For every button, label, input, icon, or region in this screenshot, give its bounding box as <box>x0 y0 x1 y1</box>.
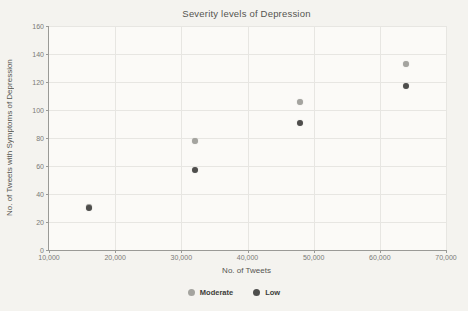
y-tick-mark <box>46 138 49 139</box>
y-tick-label: 20 <box>36 219 44 226</box>
x-tick-label: 60,000 <box>369 254 390 261</box>
x-tick-mark <box>248 250 249 253</box>
y-gridline <box>49 194 446 195</box>
y-gridline <box>49 54 446 55</box>
data-point-low <box>86 205 92 211</box>
legend-swatch-moderate <box>188 289 195 296</box>
y-tick-label: 40 <box>36 191 44 198</box>
legend-swatch-low <box>253 289 260 296</box>
y-gridline <box>49 166 446 167</box>
x-tick-label: 40,000 <box>237 254 258 261</box>
y-tick-label: 60 <box>36 163 44 170</box>
x-tick-mark <box>115 250 116 253</box>
y-tick-label: 80 <box>36 135 44 142</box>
data-point-low <box>403 83 409 89</box>
legend-item-moderate: Moderate <box>188 288 233 297</box>
x-tick-label: 30,000 <box>171 254 192 261</box>
y-tick-mark <box>46 166 49 167</box>
data-point-moderate <box>403 61 409 67</box>
y-tick-mark <box>46 26 49 27</box>
x-tick-label: 20,000 <box>104 254 125 261</box>
x-tick-label: 50,000 <box>303 254 324 261</box>
y-tick-mark <box>46 82 49 83</box>
y-gridline <box>49 138 446 139</box>
data-point-low <box>297 120 303 126</box>
y-axis-label: No. of Tweets with Symptoms of Depressio… <box>2 26 16 250</box>
x-tick-label: 10,000 <box>38 254 59 261</box>
y-gridline <box>49 82 446 83</box>
y-gridline <box>49 222 446 223</box>
y-tick-mark <box>46 222 49 223</box>
x-tick-mark <box>49 250 50 253</box>
y-gridline <box>49 110 446 111</box>
legend-label-low: Low <box>265 288 280 297</box>
plot-area: 10,00020,00030,00040,00050,00060,00070,0… <box>48 26 446 251</box>
y-tick-label: 140 <box>32 51 44 58</box>
data-point-moderate <box>192 138 198 144</box>
x-tick-mark <box>380 250 381 253</box>
x-tick-mark <box>314 250 315 253</box>
y-tick-mark <box>46 110 49 111</box>
chart-title: Severity levels of Depression <box>48 8 445 19</box>
data-point-low <box>192 167 198 173</box>
legend-label-moderate: Moderate <box>200 288 233 297</box>
y-gridline <box>49 26 446 27</box>
y-tick-label: 120 <box>32 79 44 86</box>
y-tick-label: 100 <box>32 107 44 114</box>
y-tick-label: 0 <box>40 247 44 254</box>
legend: ModerateLow <box>0 288 468 297</box>
y-tick-mark <box>46 194 49 195</box>
y-tick-label: 160 <box>32 23 44 30</box>
y-tick-mark <box>46 54 49 55</box>
x-tick-mark <box>181 250 182 253</box>
y-tick-mark <box>46 250 49 251</box>
chart-figure: Severity levels of Depression No. of Twe… <box>0 0 468 311</box>
x-gridline <box>446 26 447 250</box>
x-axis-label: No. of Tweets <box>48 266 445 275</box>
data-point-moderate <box>297 99 303 105</box>
x-tick-mark <box>446 250 447 253</box>
x-tick-label: 70,000 <box>435 254 456 261</box>
legend-item-low: Low <box>253 288 280 297</box>
